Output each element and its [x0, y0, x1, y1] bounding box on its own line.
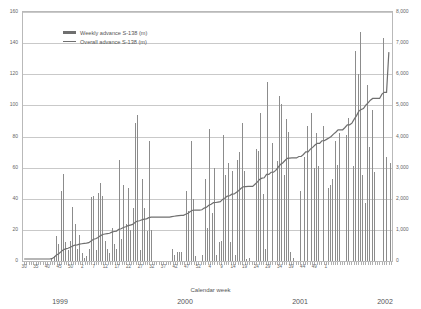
legend-line-swatch-icon	[63, 41, 76, 42]
x-axis-tickmark	[361, 262, 362, 265]
y-axis-right-tick: 2,000	[396, 196, 420, 201]
y-axis-right-tick: 3,000	[396, 165, 420, 170]
y-axis-left-tick: 60	[0, 165, 18, 170]
year-label: 2001	[280, 298, 320, 305]
y-axis-left-tick: 140	[0, 40, 18, 45]
year-label: 2002	[365, 298, 405, 305]
y-axis-right-tick: 6,000	[396, 71, 420, 76]
x-axis-tickmark	[386, 262, 387, 265]
legend-item-overall: Overall advance S-138 (m)	[63, 37, 147, 46]
x-axis-tickmark	[347, 262, 348, 265]
x-axis-tickmark	[379, 262, 380, 265]
x-axis-tickmark	[333, 262, 334, 265]
y-axis-right-tick: 5,000	[396, 102, 420, 107]
x-axis-tickmark	[384, 262, 385, 265]
y-axis-left-tick: 40	[0, 196, 18, 201]
x-axis-tickmark	[391, 262, 392, 265]
plot-inner	[23, 12, 392, 261]
x-axis-tickmark	[368, 262, 369, 265]
x-axis-tickmark	[349, 262, 350, 265]
y-axis-left-tick: 80	[0, 134, 18, 139]
y-axis-left-tick: 100	[0, 102, 18, 107]
x-axis-tickmark	[389, 262, 390, 265]
legend-item-weekly: Weekly advance S-138 (m)	[63, 28, 147, 37]
x-axis-tickmark	[365, 262, 366, 265]
plot-area: Weekly advance S-138 (m) Overall advance…	[22, 11, 393, 262]
y-axis-left-tick: 20	[0, 227, 18, 232]
y-axis-right-tick: 1,000	[396, 227, 420, 232]
x-axis-tickmark	[363, 262, 364, 265]
legend-bar-swatch-icon	[63, 31, 76, 34]
x-axis-tickmark	[344, 262, 345, 265]
x-axis-tick-label: 1	[319, 264, 333, 269]
line-series-overall-advance	[23, 12, 392, 261]
x-axis-tickmark	[372, 262, 373, 265]
y-axis-left-tick: 120	[0, 71, 18, 76]
x-axis-tickmark	[358, 262, 359, 265]
x-axis-tickmark	[335, 262, 336, 265]
x-axis-tickmark	[337, 262, 338, 265]
legend-label-overall: Overall advance S-138 (m)	[80, 39, 147, 45]
y-axis-left-tick: 160	[0, 9, 18, 14]
x-axis-title: Calendar week	[0, 287, 421, 293]
y-axis-right-tick: 7,000	[396, 40, 420, 45]
y-axis-right-tick: 8,000	[396, 9, 420, 14]
y-axis-right-tick: 4,000	[396, 134, 420, 139]
y-axis-right-tick: 0	[396, 258, 420, 263]
x-axis-tickmark	[351, 262, 352, 265]
year-label: 2000	[165, 298, 205, 305]
x-axis-tickmark	[356, 262, 357, 265]
x-axis-tickmark	[377, 262, 378, 265]
chart-legend: Weekly advance S-138 (m) Overall advance…	[63, 28, 147, 46]
x-axis-tickmark	[342, 262, 343, 265]
year-label: 1999	[40, 298, 80, 305]
x-axis-tickmark	[382, 262, 383, 265]
legend-label-weekly: Weekly advance S-138 (m)	[80, 30, 147, 36]
chart-container: Weekly advance S-138 (m) Overall advance…	[0, 0, 421, 309]
y-axis-left-tick: 0	[0, 258, 18, 263]
x-axis-tickmark	[354, 262, 355, 265]
x-axis-tickmark	[370, 262, 371, 265]
x-axis-tickmark	[375, 262, 376, 265]
x-axis-tickmark	[340, 262, 341, 265]
